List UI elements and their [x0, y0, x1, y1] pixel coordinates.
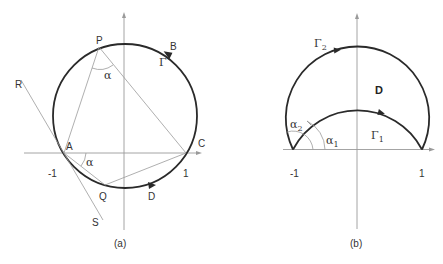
chord-pa — [64, 47, 99, 153]
curve-gamma1 — [293, 110, 422, 149]
x-axis-arrow-icon — [429, 148, 435, 152]
caption-a: (a) — [114, 238, 126, 249]
angle-arc-alpha1 — [307, 121, 325, 150]
label-gamma: Γ — [159, 56, 167, 69]
label-a: A — [66, 141, 73, 152]
tick-label-neg1-b: -1 — [290, 168, 299, 179]
label-d: D — [148, 191, 155, 202]
label-alpha2: α2 — [290, 118, 303, 133]
label-region-d: D — [375, 84, 383, 96]
curve-gamma2 — [286, 46, 429, 149]
label-r: R — [15, 79, 22, 90]
panel-a: P B Γ α R A C α -1 1 Q D S (a) — [15, 12, 205, 249]
caption-b: (b) — [350, 238, 362, 249]
label-s: S — [92, 217, 99, 228]
label-c: C — [198, 138, 205, 149]
label-alpha-bottom: α — [86, 156, 94, 169]
label-q: Q — [99, 191, 107, 202]
panel-b: Γ2 D α2 α1 Γ1 -1 1 (b) — [283, 13, 435, 249]
label-gamma1: Γ1 — [371, 129, 384, 144]
tangent-line-rs — [21, 80, 103, 220]
label-p: P — [96, 35, 103, 46]
y-axis-arrow-icon — [122, 12, 126, 18]
circle-gamma — [53, 44, 197, 188]
tick-label-1-b: 1 — [419, 168, 425, 179]
x-axis-arrow-icon — [196, 151, 202, 155]
label-b: B — [170, 41, 177, 52]
label-gamma2: Γ2 — [314, 37, 327, 52]
tick-label-1-a: 1 — [183, 168, 189, 179]
label-alpha-top: α — [104, 69, 112, 82]
tick-label-neg1-a: -1 — [48, 168, 57, 179]
figure-canvas: P B Γ α R A C α -1 1 Q D S (a) Γ2 D α — [0, 0, 443, 264]
chord-aq — [64, 153, 105, 185]
label-alpha1: α1 — [326, 134, 339, 149]
y-axis-arrow-icon — [355, 13, 359, 19]
